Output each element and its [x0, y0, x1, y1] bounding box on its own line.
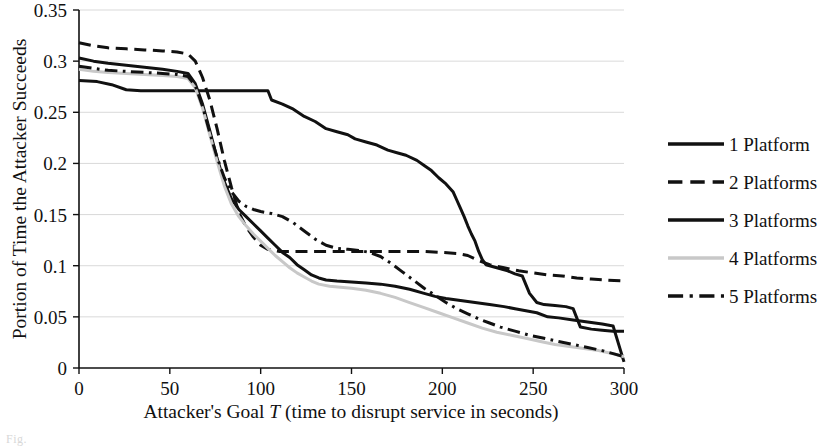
legend-label: 3 Platforms [729, 210, 817, 231]
x-axis-ticks [79, 368, 624, 374]
y-tick-label: 0.3 [43, 51, 67, 72]
x-axis-title: Attacker's Goal T (time to disrupt servi… [143, 401, 558, 423]
caption-remnant: Fig. [6, 432, 31, 447]
line-chart: 00.050.10.150.20.250.30.35 0501001502002… [0, 0, 823, 448]
y-axis-title: Portion of Time the Attacker Succeeds [9, 39, 30, 340]
x-tick-label: 250 [519, 378, 548, 399]
figure-root: 00.050.10.150.20.250.30.35 0501001502002… [0, 0, 823, 448]
series-line-3 [79, 58, 624, 362]
legend: 1 Platform2 Platforms3 Platforms4 Platfo… [668, 134, 817, 307]
x-tick-labels: 050100150200250300 [74, 378, 638, 399]
series-line-5 [79, 66, 624, 356]
y-tick-label: 0.35 [34, 0, 67, 21]
legend-item-3[interactable]: 3 Platforms [668, 210, 817, 231]
legend-label: 4 Platforms [729, 248, 817, 269]
data-series-group [79, 43, 624, 362]
y-tick-label: 0.2 [43, 153, 67, 174]
series-line-1 [79, 81, 624, 332]
legend-item-2[interactable]: 2 Platforms [668, 172, 817, 193]
y-tick-label: 0 [58, 358, 68, 379]
x-tick-label: 50 [160, 378, 179, 399]
y-tick-label: 0.05 [34, 307, 67, 328]
legend-item-4[interactable]: 4 Platforms [668, 248, 817, 269]
x-tick-label: 200 [428, 378, 457, 399]
gridlines [79, 10, 624, 317]
x-tick-label: 0 [74, 378, 84, 399]
legend-label: 5 Platforms [729, 286, 817, 307]
x-tick-label: 150 [337, 378, 366, 399]
y-tick-labels: 00.050.10.150.20.250.30.35 [34, 0, 67, 379]
y-tick-label: 0.25 [34, 102, 67, 123]
y-tick-label: 0.15 [34, 205, 67, 226]
x-tick-label: 100 [246, 378, 275, 399]
y-tick-label: 0.1 [43, 256, 67, 277]
legend-label: 1 Platform [729, 134, 810, 155]
legend-item-1[interactable]: 1 Platform [668, 134, 810, 155]
y-axis-ticks [73, 10, 79, 368]
series-line-2 [79, 43, 624, 281]
legend-item-5[interactable]: 5 Platforms [668, 286, 817, 307]
x-tick-label: 300 [610, 378, 639, 399]
legend-label: 2 Platforms [729, 172, 817, 193]
